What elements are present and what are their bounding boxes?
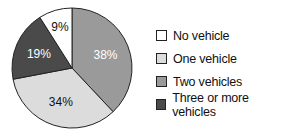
slice-percent-label: 38% (93, 48, 117, 62)
legend-item-one-vehicle: One vehicle (156, 47, 285, 70)
legend-swatch (156, 53, 167, 64)
pie-chart: 38%34%19%9% (0, 0, 150, 135)
legend-item-three-or-more-vehicles: Three or more vehicles (156, 93, 285, 116)
legend-label: No vehicle (173, 29, 229, 43)
legend-swatch (156, 99, 166, 110)
legend: No vehicle One vehicle Two vehicles Thre… (156, 24, 285, 116)
legend-swatch (156, 30, 167, 41)
legend-swatch (156, 76, 167, 87)
legend-label: Two vehicles (173, 75, 242, 89)
slice-percent-label: 19% (27, 47, 51, 61)
slice-percent-label: 34% (49, 95, 73, 109)
legend-label: Three or more vehicles (172, 91, 285, 119)
legend-item-no-vehicle: No vehicle (156, 24, 285, 47)
legend-label: One vehicle (173, 52, 237, 66)
slice-percent-label: 9% (51, 20, 69, 34)
